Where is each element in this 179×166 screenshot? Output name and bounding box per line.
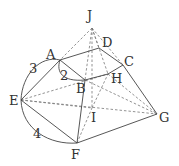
label-I: I xyxy=(91,110,96,125)
edge-FG xyxy=(77,114,157,143)
dashed-edges xyxy=(21,28,157,143)
edge-JB xyxy=(85,28,92,80)
label-H: H xyxy=(111,71,122,86)
edge-EG xyxy=(21,100,157,114)
label-C: C xyxy=(124,54,134,69)
dimension-labels: 3 2 4 xyxy=(29,61,68,141)
label-J: J xyxy=(85,8,92,23)
edge-BH xyxy=(85,74,108,80)
dimension-AE: 3 xyxy=(29,61,37,76)
label-F: F xyxy=(71,147,80,162)
label-A: A xyxy=(45,47,56,62)
label-G: G xyxy=(159,110,169,125)
edge-EF xyxy=(21,100,77,143)
label-D: D xyxy=(102,35,112,50)
geometry-diagram: 3 2 4 J D A C B H E I G F xyxy=(0,0,179,166)
label-E: E xyxy=(9,93,19,108)
dimension-EF: 4 xyxy=(33,126,41,141)
dimension-AB: 2 xyxy=(60,68,68,83)
edge-CG xyxy=(123,65,157,114)
label-B: B xyxy=(76,81,86,96)
edge-IH xyxy=(92,74,108,108)
